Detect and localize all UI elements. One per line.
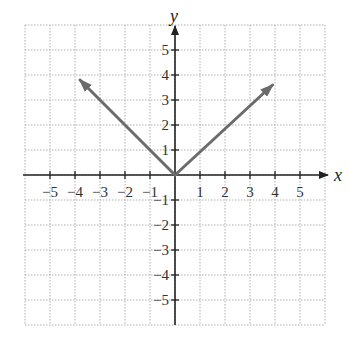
y-tick-label: −2 <box>153 217 169 233</box>
x-tick-label: 1 <box>196 184 204 200</box>
y-axis-label: y <box>168 6 178 26</box>
y-tick-label: 5 <box>162 42 170 58</box>
y-tick-label: −4 <box>153 267 169 283</box>
x-tick-label: 3 <box>246 184 254 200</box>
y-tick-label: 4 <box>162 67 170 83</box>
y-tick-label: −1 <box>153 192 169 208</box>
x-tick-label: −2 <box>117 184 133 200</box>
graph-curves <box>80 80 273 175</box>
right-branch <box>175 85 273 175</box>
y-tick-label: 1 <box>162 142 170 158</box>
x-tick-label: −3 <box>92 184 108 200</box>
x-tick-label: 2 <box>221 184 229 200</box>
y-tick-label: −5 <box>153 292 169 308</box>
coordinate-plane: −5−4−3−2−112345−5−4−3−2−112345 x y <box>0 0 349 341</box>
x-tick-label: 4 <box>271 184 279 200</box>
x-tick-label: −5 <box>42 184 58 200</box>
y-tick-label: −3 <box>153 242 169 258</box>
x-tick-label: 5 <box>296 184 304 200</box>
y-tick-label: 2 <box>162 117 170 133</box>
y-tick-label: 3 <box>162 92 170 108</box>
x-axis-label: x <box>333 165 342 185</box>
x-tick-label: −4 <box>67 184 83 200</box>
